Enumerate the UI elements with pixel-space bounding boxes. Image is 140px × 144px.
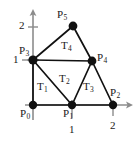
point-label-P4-sub: 4 (103, 56, 107, 65)
triangle-label-T4-sub: 4 (68, 44, 72, 53)
point-label-P1-sub: 1 (69, 112, 73, 121)
triangle-label-T2-sub: 2 (66, 77, 70, 86)
mesh-nodes-group (28, 22, 117, 110)
node-P3[interactable] (28, 55, 37, 64)
point-label-P3-sub: 3 (25, 49, 29, 58)
point-label-P0-sub: 0 (26, 112, 30, 121)
node-P0[interactable] (29, 101, 37, 109)
triangulation-figure: P0 P1 P2 P3 P4 P5 T1 T2 T3 T4 1 2 1 2 (0, 0, 140, 144)
edge-P5-P4 (73, 26, 92, 61)
triangle-label-T4: T4 (61, 40, 71, 51)
x-tick-label-1: 1 (69, 124, 75, 135)
triangle-label-T3-base: T (83, 80, 90, 92)
x-tick-label-2: 2 (110, 120, 116, 131)
triangle-label-T1-base: T (37, 80, 44, 92)
point-label-P3: P3 (19, 45, 29, 56)
point-label-P1: P1 (63, 108, 73, 119)
point-label-P5: P5 (57, 9, 67, 20)
node-P2[interactable] (109, 101, 117, 109)
node-P4[interactable] (88, 57, 97, 66)
point-label-P2: P2 (110, 87, 120, 98)
point-label-P4: P4 (97, 52, 107, 63)
point-label-P5-sub: 5 (63, 13, 67, 22)
triangle-label-T4-base: T (61, 39, 68, 51)
triangle-label-T3: T3 (83, 81, 93, 92)
edge-P3-P4 (33, 60, 92, 61)
node-P5[interactable] (69, 22, 78, 31)
triangle-label-T2-base: T (59, 72, 66, 84)
triangle-label-T2: T2 (59, 73, 69, 84)
edge-P4-P2 (92, 61, 113, 105)
y-tick-label-1: 1 (13, 54, 19, 65)
triangle-label-T3-sub: 3 (90, 85, 94, 94)
y-tick-label-2: 2 (19, 20, 25, 31)
point-label-P2-sub: 2 (116, 91, 120, 100)
triangle-label-T1: T1 (37, 81, 47, 92)
triangle-label-T1-sub: 1 (44, 85, 48, 94)
point-label-P0: P0 (20, 108, 30, 119)
